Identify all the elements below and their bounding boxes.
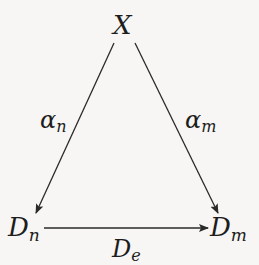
label-alpha-m-subscript: m [201,117,216,136]
node-dn: Dn [8,214,40,244]
node-dm: Dm [210,214,247,244]
label-alpha-n-symbol: α [40,106,56,134]
label-alpha-m: αm [185,108,216,135]
label-de-symbol: D [112,235,131,263]
node-dn-subscript: n [29,225,40,245]
node-dm-symbol: D [210,212,231,242]
label-alpha-m-symbol: α [185,106,201,134]
node-dm-subscript: m [231,225,247,245]
label-alpha-n-subscript: n [56,117,66,136]
label-de-subscript: e [131,246,140,265]
node-dn-symbol: D [8,212,29,242]
label-alpha-n: αn [40,108,67,135]
node-x-symbol: X [113,10,132,40]
node-x: X [113,12,132,38]
label-de: De [112,237,141,264]
